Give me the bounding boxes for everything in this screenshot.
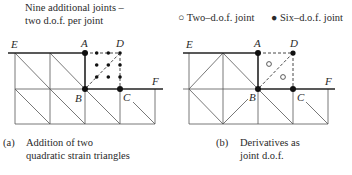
- panel-a-caption-line2: quadratic strain triangles: [26, 150, 130, 162]
- panel-a-label-C: C: [123, 91, 130, 103]
- panel-b-caption-tag: (b): [216, 137, 228, 149]
- panel-b-label-A: A: [254, 37, 261, 49]
- panel-a-label-A: A: [81, 37, 88, 49]
- panel-a-label-E: E: [11, 38, 18, 50]
- panel-b-dashed-element: [258, 53, 293, 89]
- panel-b-label-D: D: [290, 37, 298, 49]
- panel-a-label-B: B: [75, 92, 82, 104]
- panel-b-label-E: E: [186, 38, 193, 50]
- panel-a-label-D: D: [116, 37, 124, 49]
- panel-a-label-F: F: [152, 75, 159, 87]
- panel-b-caption-line2: joint d.o.f.: [240, 150, 284, 162]
- panel-a-thick-edges: [8, 53, 163, 89]
- panel-b-label-F: F: [325, 75, 332, 87]
- panel-b-label-B: B: [249, 91, 256, 103]
- panel-a-dashed-element: [85, 53, 120, 89]
- panel-b-label-C: C: [297, 91, 304, 103]
- panel-a-caption-tag: (a): [3, 137, 15, 149]
- panel-b-caption-line1: Derivatives as: [240, 137, 300, 149]
- panel-a-caption-line1: Addition of two: [26, 137, 93, 149]
